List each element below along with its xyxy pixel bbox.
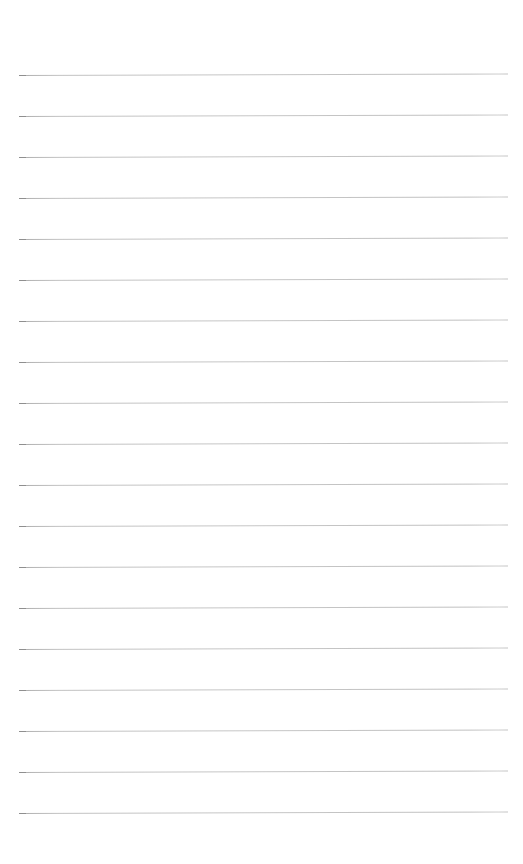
ruled-line	[19, 155, 508, 158]
ruled-line	[19, 770, 508, 773]
ruled-line	[19, 606, 508, 609]
ruled-line	[19, 319, 508, 322]
ruled-line	[19, 565, 508, 568]
ruled-line	[19, 401, 508, 404]
ruled-line	[19, 442, 508, 445]
ruled-line	[19, 688, 508, 691]
ruled-line	[19, 114, 508, 117]
ruled-line	[19, 811, 508, 814]
scanned-page	[0, 0, 523, 864]
ruled-line	[19, 483, 508, 486]
ruled-line	[19, 647, 508, 650]
ruled-line	[19, 237, 508, 240]
ruled-line	[19, 278, 508, 281]
ruled-line	[19, 73, 508, 76]
ruled-line	[19, 729, 508, 732]
paper-surface	[0, 0, 523, 864]
ruled-line	[19, 360, 508, 363]
ruled-line	[19, 196, 508, 199]
ruled-line	[19, 524, 508, 527]
